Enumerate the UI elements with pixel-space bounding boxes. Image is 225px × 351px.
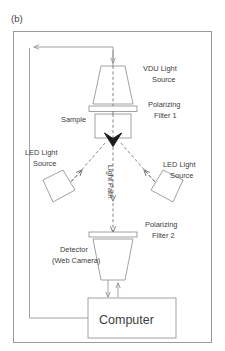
light-path-label: Light Path bbox=[106, 165, 115, 198]
top-feed-wire bbox=[34, 47, 113, 68]
detector-label-line2: (Web Camera) bbox=[52, 256, 100, 265]
detector-label-line1: Detector bbox=[60, 245, 88, 254]
polarizing-filter-2-body bbox=[89, 232, 137, 237]
led-light-source-right-label-line2: Source bbox=[170, 171, 193, 180]
led-light-source-right-label-line1: LED Light bbox=[163, 160, 195, 169]
optical-setup-diagram: (b) VDU Light Source Polarizing Filter 1… bbox=[0, 0, 225, 351]
polarizing-filter-2-label-line1: Polarizing bbox=[145, 220, 177, 229]
sample-label: Sample bbox=[61, 115, 86, 124]
polarizing-filter-2-label-line2: Filter 2 bbox=[152, 231, 175, 240]
led-light-source-left-label-line1: LED Light bbox=[25, 148, 57, 157]
led-light-source-left-body bbox=[43, 170, 75, 202]
polarizing-filter-1-label-line1: Polarizing bbox=[148, 100, 180, 109]
led-light-source-left-label-line2: Source bbox=[33, 159, 56, 168]
panel-label: (b) bbox=[11, 13, 23, 24]
vdu-light-source-label-line1: VDU Light bbox=[143, 64, 177, 73]
computer-label: Computer bbox=[99, 313, 154, 327]
polarizing-filter-1-body bbox=[89, 106, 137, 112]
figure-panel: (b) VDU Light Source Polarizing Filter 1… bbox=[0, 0, 225, 351]
polarizing-filter-1-label-line2: Filter 1 bbox=[154, 111, 177, 120]
vdu-light-source-label-line2: Source bbox=[152, 75, 175, 84]
